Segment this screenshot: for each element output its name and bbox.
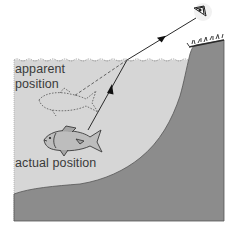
apparent-position-label-line1: apparent [15, 62, 65, 76]
apparent-position-label-line2: position [15, 77, 59, 91]
observer-eye-icon [194, 3, 212, 21]
refraction-diagram [0, 0, 237, 231]
actual-position-label: actual position [15, 156, 96, 170]
arrow-head-upper [157, 36, 166, 43]
